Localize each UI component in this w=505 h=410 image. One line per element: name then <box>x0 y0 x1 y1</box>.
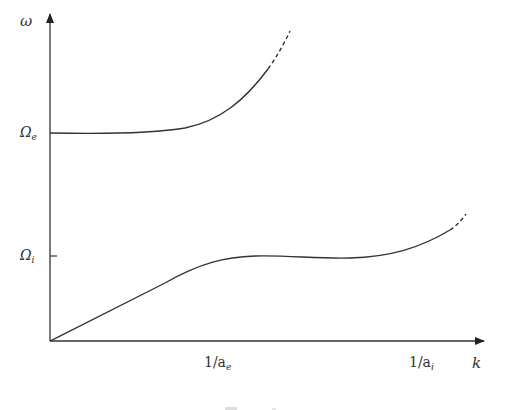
inv-ae-label: 1/ae <box>204 354 231 372</box>
tick-text: 1/a <box>204 354 226 370</box>
upper-branch-dashed <box>268 31 290 69</box>
tick-text: 1/a <box>409 354 431 370</box>
lower-branch-dashed <box>450 214 466 230</box>
y-axis-label: ω <box>20 12 32 30</box>
upper-branch-curve <box>50 69 268 133</box>
lower-branch-curve <box>50 230 450 341</box>
inv-ai-label: 1/ai <box>409 354 434 372</box>
x-axis-label: k <box>472 354 481 372</box>
omega-e-label: Ωe <box>20 124 37 142</box>
subscript: e <box>226 362 231 372</box>
subscript: e <box>32 132 37 142</box>
omega-symbol: Ω <box>20 247 32 263</box>
subscript: i <box>431 362 434 372</box>
omega-symbol: Ω <box>20 124 32 140</box>
omega-i-label: Ωi <box>20 247 35 265</box>
dispersion-diagram <box>0 0 505 410</box>
subscript: i <box>32 255 35 265</box>
